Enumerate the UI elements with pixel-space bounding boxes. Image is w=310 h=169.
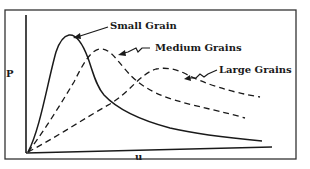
grain-size-distribution-diagram: P u Small Grain Medium Grains Large Grai… xyxy=(0,0,310,169)
small-grain-label: Small Grain xyxy=(110,20,177,31)
large-grains-label: Large Grains xyxy=(219,64,292,75)
medium-grains-label: Medium Grains xyxy=(155,42,242,53)
y-axis-label: P xyxy=(6,68,14,79)
x-axis-label: u xyxy=(135,151,142,162)
large-grains-curve xyxy=(28,68,260,152)
x-axis xyxy=(26,147,272,153)
small-grain-pointer xyxy=(73,27,108,39)
medium-grains-curve xyxy=(28,49,245,152)
medium-grains-pointer xyxy=(118,48,150,56)
large-grains-pointer xyxy=(184,70,217,81)
